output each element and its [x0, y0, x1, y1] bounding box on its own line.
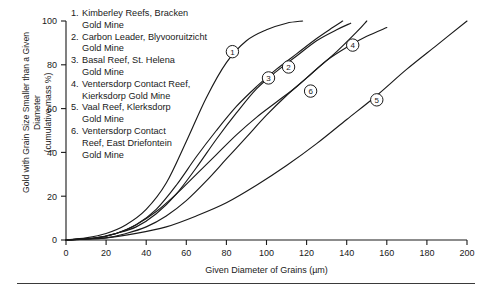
- curve-marker-6: 6: [304, 85, 316, 97]
- x-tick-label: 40: [141, 248, 151, 258]
- legend-item-label: Ventersdorp Contact Reef,Kierksdorp Gold…: [82, 79, 241, 103]
- y-tick-label: 0: [52, 235, 57, 245]
- legend-item-2: 2.Carbon Leader, BlyvooruitzichtGold Min…: [71, 32, 241, 56]
- y-axis-title-line1: Gold with Grain Size Smaller than a Give…: [21, 15, 43, 211]
- legend-item-line: Ventersdorp Contact Reef,: [82, 79, 241, 91]
- legend-item-line: Ventersdorp Contact: [82, 126, 241, 138]
- curve-marker-4: 4: [347, 39, 359, 51]
- legend-item-number: 6.: [71, 126, 82, 161]
- x-tick-label: 20: [101, 248, 111, 258]
- marker-label-5: 5: [375, 96, 380, 105]
- legend-item-label: Carbon Leader, BlyvooruitzichtGold Mine: [82, 32, 241, 56]
- legend-item-line: Gold Mine: [82, 67, 241, 79]
- x-tick-label: 0: [63, 248, 68, 258]
- legend-item-label: Ventersdorp ContactReef, East Driefontei…: [82, 126, 241, 161]
- legend-item-label: Basal Reef, St. HelenaGold Mine: [82, 55, 241, 79]
- legend-item-line: Reef, East Driefontein: [82, 138, 241, 150]
- x-tick-label: 60: [181, 248, 191, 258]
- curve-marker-2: 2: [282, 61, 294, 73]
- x-tick-label: 100: [259, 248, 274, 258]
- legend-item-line: Kierksdorp Gold Mine: [82, 91, 241, 103]
- curve-marker-3: 3: [262, 72, 274, 84]
- y-axis-title-line2: (cumulative mass %): [43, 15, 54, 211]
- legend-item-number: 4.: [71, 79, 82, 103]
- x-tick-label: 120: [299, 248, 314, 258]
- legend-item-line: Gold Mine: [82, 150, 241, 162]
- legend-item-1: 1.Kimberley Reefs, BrackenGold Mine: [71, 8, 241, 32]
- x-tick-label: 80: [221, 248, 231, 258]
- marker-label-6: 6: [308, 87, 313, 96]
- legend-item-3: 3.Basal Reef, St. HelenaGold Mine: [71, 55, 241, 79]
- legend-item-line: Basal Reef, St. Helena: [82, 55, 241, 67]
- x-axis-title: Given Diameter of Grains (µm): [205, 265, 328, 275]
- legend-item-6: 6.Ventersdorp ContactReef, East Driefont…: [71, 126, 241, 161]
- legend-item-line: Gold Mine: [82, 20, 241, 32]
- legend-item-line: Carbon Leader, Blyvooruitzicht: [82, 32, 241, 44]
- legend-item-line: Gold Mine: [82, 43, 241, 55]
- bottom-divider: [17, 283, 475, 284]
- legend-item-number: 5.: [71, 102, 82, 126]
- x-tick-label: 140: [339, 248, 354, 258]
- marker-label-3: 3: [266, 74, 271, 83]
- legend-item-line: Gold Mine: [82, 114, 241, 126]
- legend-item-label: Vaal Reef, KlerksdorpGold Mine: [82, 102, 241, 126]
- curve-marker-5: 5: [371, 94, 383, 106]
- legend-item-number: 3.: [71, 55, 82, 79]
- legend-item-5: 5.Vaal Reef, KlerksdorpGold Mine: [71, 102, 241, 126]
- legend-item-number: 1.: [71, 8, 82, 32]
- legend-item-number: 2.: [71, 32, 82, 56]
- legend-item-line: Kimberley Reefs, Bracken: [82, 8, 241, 20]
- marker-label-2: 2: [286, 63, 291, 72]
- legend: 1.Kimberley Reefs, BrackenGold Mine2.Car…: [71, 8, 241, 161]
- x-tick-label: 180: [419, 248, 434, 258]
- y-axis-title: Gold with Grain Size Smaller than a Give…: [21, 15, 54, 211]
- marker-label-4: 4: [350, 41, 355, 50]
- legend-item-label: Kimberley Reefs, BrackenGold Mine: [82, 8, 241, 32]
- legend-item-4: 4.Ventersdorp Contact Reef,Kierksdorp Go…: [71, 79, 241, 103]
- x-tick-label: 200: [459, 248, 474, 258]
- legend-item-line: Vaal Reef, Klerksdorp: [82, 102, 241, 114]
- figure-container: 123456 020406080100120140160180200020406…: [0, 0, 492, 291]
- x-tick-label: 160: [379, 248, 394, 258]
